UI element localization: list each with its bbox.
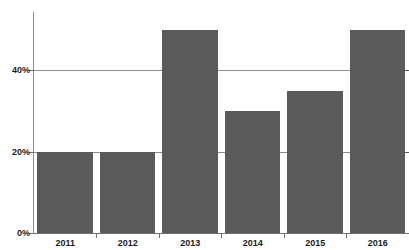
bar-slot-2011	[34, 12, 97, 233]
y-axis-label-20: 20%	[12, 147, 30, 157]
bar-chart: 40% 20% 0% 2011 2012 2013 2014 2015 2016	[0, 0, 409, 250]
bar-2012[interactable]	[100, 152, 156, 233]
x-axis-label-2016: 2016	[347, 238, 409, 249]
y-axis-line	[33, 12, 34, 234]
bar-2011[interactable]	[37, 152, 93, 233]
bar-2014[interactable]	[225, 111, 281, 233]
y-axis-label-0: 0%	[17, 228, 30, 238]
bar-2015[interactable]	[287, 91, 343, 233]
x-axis-label-2014: 2014	[222, 238, 285, 249]
bar-series	[34, 12, 409, 233]
bar-slot-2016	[347, 12, 409, 233]
x-axis-label-2011: 2011	[34, 238, 97, 249]
bar-2016[interactable]	[350, 30, 406, 234]
bar-slot-2013	[159, 12, 222, 233]
bar-slot-2012	[97, 12, 160, 233]
chart-title	[0, 0, 409, 2]
x-axis-label-2013: 2013	[159, 238, 222, 249]
y-axis-label-40: 40%	[12, 65, 30, 75]
bar-slot-2015	[284, 12, 347, 233]
x-axis-label-2015: 2015	[284, 238, 347, 249]
bar-slot-2014	[222, 12, 285, 233]
x-axis-label-2012: 2012	[97, 238, 160, 249]
bar-2013[interactable]	[162, 30, 218, 234]
